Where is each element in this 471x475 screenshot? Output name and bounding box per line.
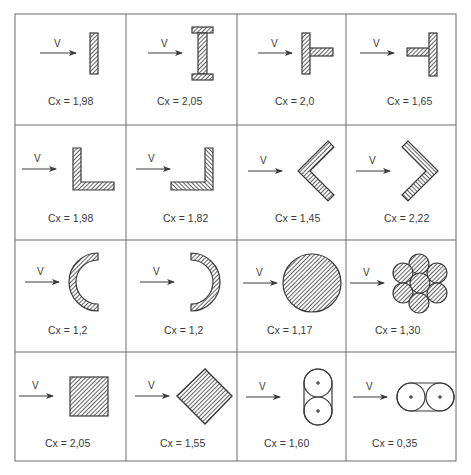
cell-diamond: V Cx = 1,55	[135, 369, 232, 449]
velocity-arrow: V	[19, 380, 53, 396]
coefficient-label: Cx = 2,22	[384, 212, 429, 224]
coefficient-label: Cx = 2,05	[157, 95, 202, 107]
velocity-arrow: V	[350, 267, 384, 283]
coefficient-label: Cx = 1,98	[48, 95, 93, 107]
velocity-arrow: V	[248, 155, 282, 171]
velocity-label: V	[148, 153, 155, 164]
cell-t-section-flange-back: V Cx = 1,65	[360, 33, 437, 107]
coefficient-label: Cx = 1,30	[375, 324, 420, 336]
velocity-label: V	[271, 38, 278, 49]
coefficient-label: Cx = 1,82	[163, 212, 208, 224]
velocity-arrow: V	[136, 153, 170, 169]
velocity-label: V	[369, 155, 376, 166]
angle-shape	[171, 148, 213, 190]
velocity-label: V	[153, 266, 160, 277]
velocity-label: V	[373, 38, 380, 49]
velocity-label: V	[161, 38, 168, 49]
velocity-arrow: V	[140, 266, 174, 282]
cell-angle-opening-left: V Cx = 1,82	[136, 148, 213, 224]
drag-coefficient-diagram: V Cx = 1,98 V Cx = 2,05 V Cx = 2,0	[0, 0, 471, 475]
coefficient-label: Cx = 1,2	[164, 324, 204, 336]
coefficient-label: Cx = 1,55	[160, 437, 205, 449]
velocity-arrow: V	[25, 266, 59, 282]
cell-strand-bundle: V Cx = 1,30	[350, 254, 447, 336]
coefficient-label: Cx = 1,60	[264, 437, 309, 449]
twin-cylinders-shape	[397, 383, 454, 411]
velocity-label: V	[54, 38, 61, 49]
velocity-arrow: V	[22, 153, 56, 169]
coefficient-label: Cx = 1,65	[387, 95, 432, 107]
velocity-label: V	[363, 267, 370, 278]
square-shape	[70, 377, 108, 416]
coefficient-label: Cx = 1,17	[267, 324, 312, 336]
cell-half-pipe-convex: V Cx = 1,2	[25, 253, 98, 336]
cell-t-section-flange-front: V Cx = 2,0	[258, 33, 333, 107]
cell-square: V Cx = 2,05	[19, 377, 108, 449]
cell-i-beam: V Cx = 2,05	[148, 27, 213, 107]
velocity-arrow: V	[360, 38, 394, 53]
velocity-label: V	[260, 155, 267, 166]
strand-bundle-shape	[393, 254, 447, 313]
coefficient-label: Cx = 1,2	[48, 324, 88, 336]
velocity-arrow: V	[353, 381, 387, 397]
velocity-label: V	[34, 153, 41, 164]
half-pipe-shape	[69, 253, 98, 311]
velocity-arrow: V	[258, 38, 292, 53]
flat-plate-shape	[90, 33, 98, 74]
cell-angle-opening-right: V Cx = 1,98	[22, 148, 114, 224]
velocity-arrow: V	[135, 380, 169, 396]
cell-circle: V Cx = 1,17	[243, 254, 341, 336]
velocity-arrow: V	[356, 155, 390, 171]
coefficient-label: Cx = 0,35	[372, 437, 417, 449]
coefficient-label: Cx = 1,45	[275, 212, 320, 224]
coefficient-label: Cx = 1,98	[48, 212, 93, 224]
cell-chevron-right: V Cx = 2,22	[356, 141, 438, 224]
velocity-arrow: V	[243, 267, 277, 283]
cell-chevron-left: V Cx = 1,45	[248, 141, 334, 224]
t-section-shape	[302, 33, 333, 74]
cell-flat-plate: V Cx = 1,98	[40, 33, 98, 107]
chevron-shape	[298, 141, 334, 201]
velocity-label: V	[37, 266, 44, 277]
velocity-arrow: V	[40, 38, 76, 53]
velocity-arrow: V	[246, 381, 280, 397]
velocity-label: V	[259, 381, 266, 392]
velocity-label: V	[148, 380, 155, 391]
t-section-shape	[407, 33, 437, 76]
twin-cylinders-shape	[304, 369, 332, 425]
chevron-shape	[402, 141, 438, 201]
diamond-shape	[177, 369, 232, 424]
circle-shape	[283, 254, 341, 312]
coefficient-label: Cx = 2,05	[45, 437, 90, 449]
velocity-arrow: V	[148, 38, 182, 53]
coefficient-label: Cx = 2,0	[275, 95, 315, 107]
velocity-label: V	[366, 381, 373, 392]
i-beam-shape	[192, 27, 213, 80]
cell-half-pipe-concave: V Cx = 1,2	[140, 253, 220, 336]
cell-twin-cylinders-vertical: V Cx = 1,60	[246, 369, 332, 449]
cell-twin-cylinders-horizontal: V Cx = 0,35	[353, 381, 454, 449]
half-pipe-shape	[191, 253, 220, 311]
angle-shape	[73, 148, 114, 190]
velocity-label: V	[256, 267, 263, 278]
velocity-label: V	[32, 380, 39, 391]
